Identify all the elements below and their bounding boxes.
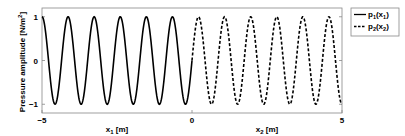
x-axis-label: x2 [m]	[256, 125, 279, 135]
y-tick-label: −1	[29, 100, 39, 109]
axis-ticks: −101−505	[29, 13, 345, 125]
x-tick-label: −5	[37, 116, 47, 125]
series-group	[42, 17, 342, 105]
legend-label: p2(x2)	[368, 22, 389, 32]
y-axis-label: Pressure amplitude [N/m2]	[17, 12, 27, 113]
legend-label: p1(x1)	[368, 10, 389, 20]
x-axis-labels: x1 [m]x2 [m]	[106, 125, 279, 135]
y-tick-label: 0	[34, 57, 39, 66]
y-tick-label: 1	[34, 13, 39, 22]
x-tick-label: 5	[340, 116, 345, 125]
x-tick-label: 0	[190, 116, 195, 125]
x-axis-label: x1 [m]	[106, 125, 129, 135]
series-line-p1x1	[42, 17, 192, 105]
series-line-p2x2	[192, 17, 342, 105]
chart: −101−505 Pressure amplitude [N/m2] x1 [m…	[0, 0, 405, 136]
legend: p1(x1)p2(x2)	[351, 8, 399, 36]
